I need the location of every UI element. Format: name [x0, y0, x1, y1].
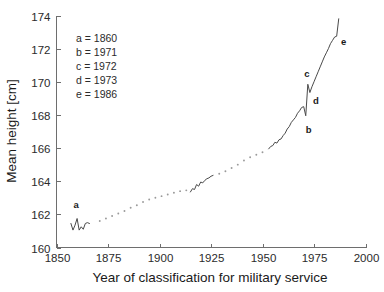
- data-point: [237, 164, 239, 166]
- y-tick-label: 164: [31, 176, 51, 188]
- y-tick-label: 172: [31, 44, 50, 56]
- y-tick-label: 168: [31, 110, 50, 122]
- data-point: [167, 194, 169, 196]
- annotation-label-c: c: [304, 68, 309, 79]
- mean-height-line-chart: 160162164166168170172174 185018751900192…: [0, 0, 384, 292]
- y-tick-label: 166: [31, 143, 50, 155]
- data-point: [142, 201, 144, 203]
- annotation-label-b: b: [306, 124, 312, 135]
- x-tick-label: 2000: [354, 252, 380, 264]
- data-point: [105, 218, 107, 220]
- x-axis-title: Year of classification for military serv…: [92, 270, 327, 285]
- data-point: [249, 156, 251, 158]
- data-point: [185, 189, 187, 191]
- data-point: [154, 197, 156, 199]
- chart-legend: a = 1860b = 1971c = 1972d = 1973e = 1986: [76, 32, 117, 100]
- data-point: [124, 210, 126, 212]
- annotation-label-a: a: [73, 199, 79, 210]
- data-point: [255, 154, 257, 156]
- annotation-label-d: d: [313, 95, 319, 106]
- data-point: [173, 192, 175, 194]
- x-tick-label: 1850: [45, 252, 71, 264]
- y-axis-title: Mean height [cm]: [4, 79, 19, 183]
- data-point: [243, 160, 245, 162]
- data-point: [117, 213, 119, 215]
- data-point: [99, 220, 101, 222]
- annotation-label-e: e: [341, 36, 346, 47]
- data-point: [231, 167, 233, 169]
- data-point: [161, 195, 163, 197]
- legend-entry: a = 1860: [76, 32, 117, 44]
- chart-figure: 160162164166168170172174 185018751900192…: [0, 0, 384, 292]
- legend-entry: c = 1972: [76, 60, 117, 72]
- y-tick-label: 174: [31, 11, 51, 23]
- legend-entry: e = 1986: [76, 88, 117, 100]
- data-point: [111, 215, 113, 217]
- x-tick-label: 1875: [96, 252, 122, 264]
- data-point: [148, 198, 150, 200]
- data-point: [218, 173, 220, 175]
- y-tick-label: 170: [31, 77, 50, 89]
- x-tick-label: 1975: [302, 252, 328, 264]
- data-point: [136, 204, 138, 206]
- data-point: [130, 207, 132, 209]
- x-tick-label: 1950: [251, 252, 277, 264]
- x-tick-label: 1900: [148, 252, 174, 264]
- data-point: [224, 170, 226, 172]
- data-point: [262, 151, 264, 153]
- y-tick-label: 162: [31, 209, 50, 221]
- data-point: [179, 190, 181, 192]
- legend-entry: d = 1973: [76, 74, 117, 86]
- x-tick-label: 1925: [199, 252, 225, 264]
- legend-entry: b = 1971: [76, 46, 117, 58]
